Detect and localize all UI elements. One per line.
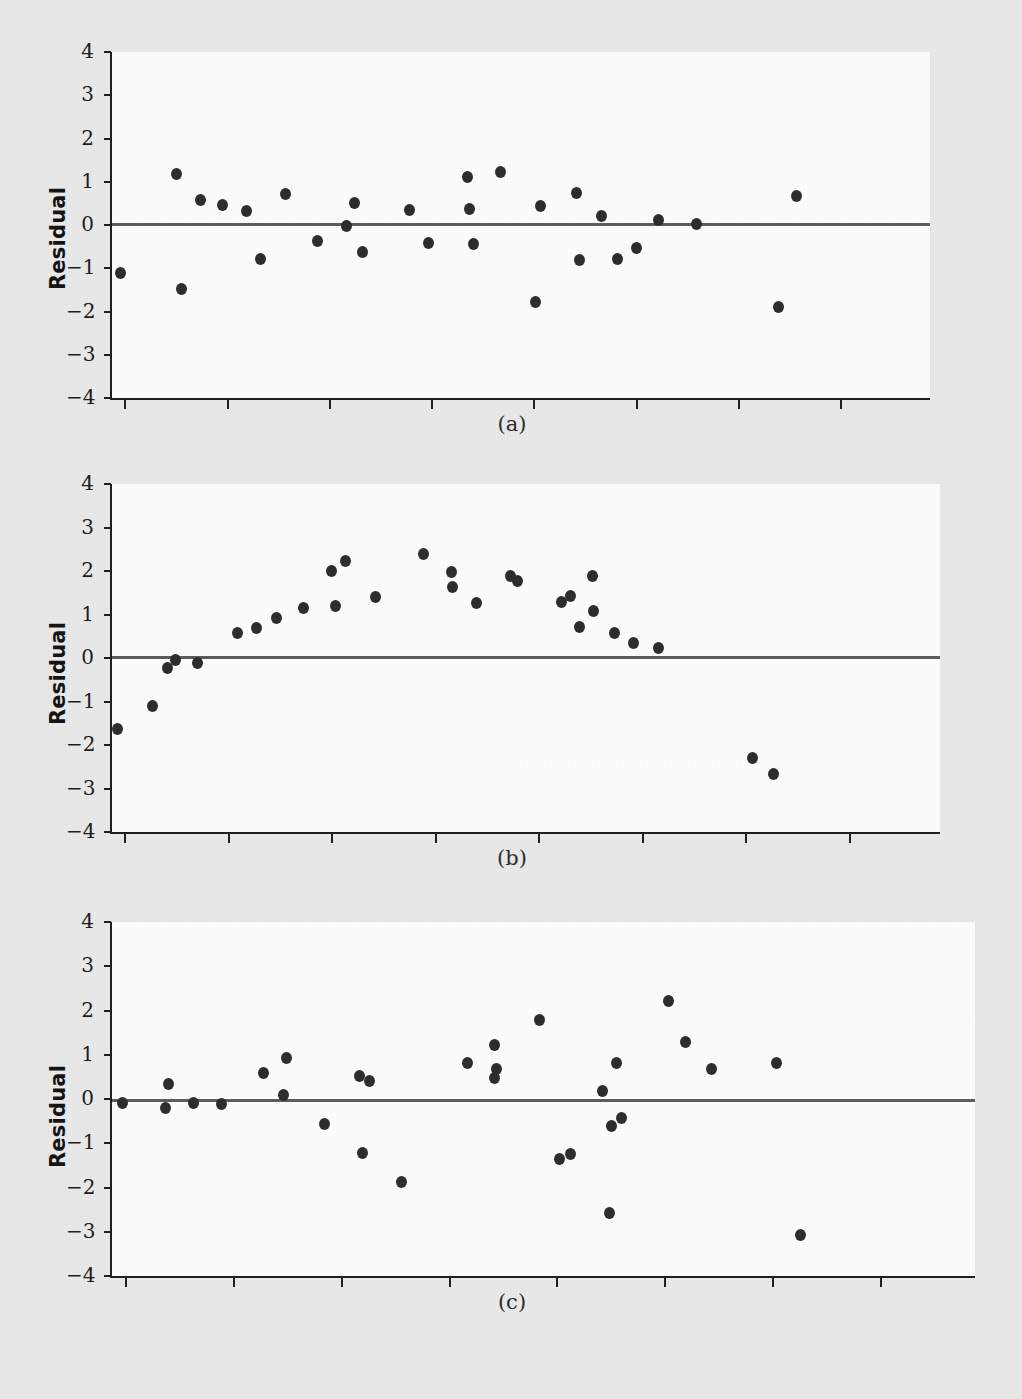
data-point xyxy=(653,642,664,654)
data-point xyxy=(192,657,203,669)
panel-c-caption: (c) xyxy=(412,1290,612,1314)
data-point xyxy=(312,235,323,247)
data-point xyxy=(680,1036,691,1048)
residual-plots-figure: Residual 43210−1−2−3−4 (a) Residual 4321… xyxy=(0,0,1022,1399)
data-point xyxy=(281,1052,292,1064)
data-point xyxy=(147,700,158,712)
data-point xyxy=(773,301,784,313)
data-point xyxy=(628,637,639,649)
data-point xyxy=(571,187,582,199)
panel-b: Residual 43210−1−2−3−4 (b) xyxy=(0,450,1022,900)
data-point xyxy=(176,283,187,295)
data-point xyxy=(418,548,429,560)
data-point xyxy=(535,200,546,212)
data-point xyxy=(663,995,674,1007)
data-point xyxy=(706,1063,717,1075)
data-point xyxy=(489,1072,500,1084)
data-point xyxy=(574,621,585,633)
data-point xyxy=(160,1102,171,1114)
data-point xyxy=(631,242,642,254)
data-point xyxy=(258,1067,269,1079)
data-point xyxy=(471,597,482,609)
data-point xyxy=(271,612,282,624)
data-point xyxy=(357,1147,368,1159)
data-point xyxy=(298,602,309,614)
data-point xyxy=(653,214,664,226)
panel-a-data-points xyxy=(0,0,1022,450)
data-point xyxy=(319,1118,330,1130)
data-point xyxy=(554,1153,565,1165)
data-point xyxy=(117,1097,128,1109)
data-point xyxy=(251,622,262,634)
data-point xyxy=(326,565,337,577)
data-point xyxy=(171,168,182,180)
data-point xyxy=(188,1097,199,1109)
panel-a-caption: (a) xyxy=(412,412,612,436)
panel-b-data-points xyxy=(0,450,1022,900)
data-point xyxy=(588,605,599,617)
data-point xyxy=(112,723,123,735)
data-point xyxy=(115,267,126,279)
data-point xyxy=(464,203,475,215)
data-point xyxy=(349,197,360,209)
data-point xyxy=(691,218,702,230)
data-point xyxy=(791,190,802,202)
data-point xyxy=(341,220,352,232)
data-point xyxy=(616,1112,627,1124)
data-point xyxy=(462,1057,473,1069)
data-point xyxy=(423,237,434,249)
data-point xyxy=(370,591,381,603)
data-point xyxy=(446,566,457,578)
panel-b-caption: (b) xyxy=(412,846,612,870)
panel-c: Residual 43210−1−2−3−4 (c) xyxy=(0,900,1022,1360)
data-point xyxy=(609,627,620,639)
data-point xyxy=(468,238,479,250)
data-point xyxy=(565,1148,576,1160)
data-point xyxy=(768,768,779,780)
data-point xyxy=(278,1089,289,1101)
data-point xyxy=(606,1120,617,1132)
data-point xyxy=(280,188,291,200)
data-point xyxy=(340,555,351,567)
data-point xyxy=(611,1057,622,1069)
data-point xyxy=(534,1014,545,1026)
data-point xyxy=(447,581,458,593)
data-point xyxy=(241,205,252,217)
data-point xyxy=(232,627,243,639)
data-point xyxy=(216,1098,227,1110)
data-point xyxy=(404,204,415,216)
data-point xyxy=(255,253,266,265)
data-point xyxy=(530,296,541,308)
data-point xyxy=(596,210,607,222)
data-point xyxy=(396,1176,407,1188)
data-point xyxy=(597,1085,608,1097)
data-point xyxy=(217,199,228,211)
data-point xyxy=(512,575,523,587)
data-point xyxy=(163,1078,174,1090)
data-point xyxy=(495,166,506,178)
data-point xyxy=(574,254,585,266)
data-point xyxy=(604,1207,615,1219)
data-point xyxy=(330,600,341,612)
data-point xyxy=(195,194,206,206)
data-point xyxy=(587,570,598,582)
data-point xyxy=(364,1075,375,1087)
data-point xyxy=(489,1039,500,1051)
panel-a: Residual 43210−1−2−3−4 (a) xyxy=(0,0,1022,450)
data-point xyxy=(462,171,473,183)
data-point xyxy=(565,590,576,602)
data-point xyxy=(357,246,368,258)
data-point xyxy=(795,1229,806,1241)
data-point xyxy=(612,253,623,265)
data-point xyxy=(170,654,181,666)
data-point xyxy=(771,1057,782,1069)
data-point xyxy=(747,752,758,764)
